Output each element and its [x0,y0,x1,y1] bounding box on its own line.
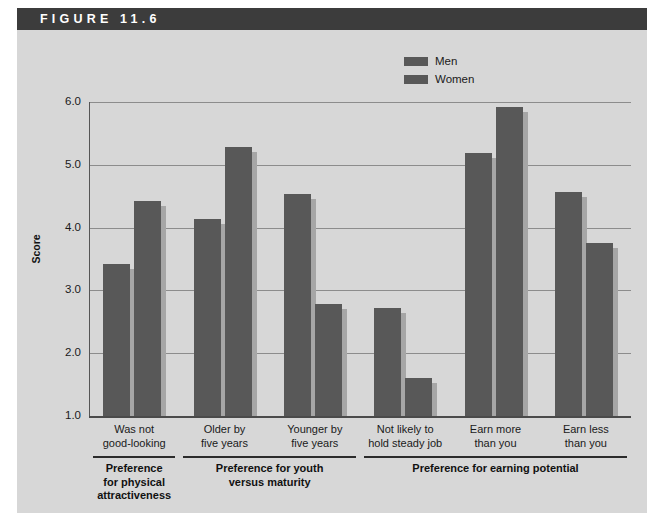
y-tick-label: 2.0 [45,346,81,358]
bar-women-4 [496,107,523,416]
group-label: Preference for youthversus maturity [183,462,356,489]
bar-women-1 [225,147,252,416]
group-rule [183,456,356,458]
group-rule [364,456,627,458]
category-label-line: than you [532,437,640,451]
chart-plot-area: Score Men Women 1.02.03.04.05.06.0 Was n… [0,0,664,526]
gridline [89,165,631,166]
group-label-line: Preference for earning potential [364,462,627,476]
group-label-line: Preference for youth [183,462,356,476]
group-rule [93,456,175,458]
bar-women-5 [586,243,613,416]
group-label-line: attractiveness [93,489,175,503]
gridline [89,102,631,103]
group-label: Preference for earning potential [364,462,627,476]
bar-men-4 [465,153,492,416]
bar-men-1 [194,219,221,416]
y-tick-label: 4.0 [45,221,81,233]
y-tick-label: 1.0 [45,409,81,421]
legend-item-women: Women [404,72,514,87]
bar-men-2 [284,194,311,416]
y-tick-label: 6.0 [45,95,81,107]
y-axis-line [89,102,90,416]
bar-women-0 [134,201,161,416]
gridline [89,228,631,229]
legend-label-men: Men [435,56,457,68]
category-label-line: Earn less [532,423,640,437]
group-label-line: versus maturity [183,476,356,490]
legend-swatch-men [404,57,428,66]
bar-men-0 [103,264,130,416]
category-label: Earn lessthan you [532,423,640,450]
y-axis-title: Score [30,209,42,289]
group-label-line: for physical [93,476,175,490]
bar-men-3 [374,308,401,416]
legend-item-men: Men [404,54,514,69]
gridline [89,353,631,354]
y-tick-label: 3.0 [45,283,81,295]
figure-root: FIGURE 11.6 Score Men Women 1.02.03.04.0… [0,0,664,526]
legend-label-women: Women [435,74,474,86]
chart-legend: Men Women [404,54,514,90]
bar-men-5 [555,192,582,416]
legend-swatch-women [404,75,428,84]
gridline [89,290,631,291]
y-tick-label: 5.0 [45,158,81,170]
x-axis-line [89,416,631,418]
group-label-line: Preference [93,462,175,476]
bar-women-2 [315,304,342,416]
group-label: Preferencefor physicalattractiveness [93,462,175,503]
bar-women-3 [405,378,432,416]
